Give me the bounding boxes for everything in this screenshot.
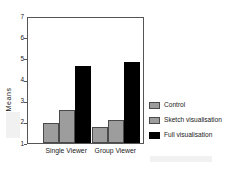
y-axis-tick-label: 5	[10, 56, 24, 63]
y-axis-tick-label: 3	[10, 98, 24, 105]
bar-group-viewer-full-visualisation	[124, 62, 140, 143]
legend-swatch-icon	[149, 102, 160, 109]
y-axis-tick-label: 1	[10, 141, 24, 148]
x-axis-label-2: Group Viewer	[85, 148, 145, 155]
y-axis-tick-label: 4	[10, 77, 24, 84]
scan-artifact	[6, 112, 20, 138]
y-axis-tick-label: 7	[10, 14, 24, 21]
bar-single-viewer-sketch-visualisation	[59, 110, 75, 143]
legend-item-sketch-visualisation[interactable]: Sketch visualisation	[149, 115, 222, 125]
bar-group-viewer-sketch-visualisation	[108, 120, 124, 143]
legend-swatch-icon	[149, 132, 160, 139]
bar-single-viewer-control	[43, 123, 59, 143]
bar-chart-figure: Means 7654321 Single ViewerGroup Viewer …	[0, 0, 232, 169]
plot-area	[27, 17, 144, 144]
bar-group-viewer-control	[92, 127, 108, 144]
legend-label: Sketch visualisation	[164, 117, 222, 124]
y-axis-tick-label: 6	[10, 35, 24, 42]
legend-label: Control	[164, 102, 185, 109]
legend-label: Full visualisation	[164, 132, 212, 139]
legend-swatch-icon	[149, 117, 160, 124]
legend-item-control[interactable]: Control	[149, 100, 185, 110]
legend-item-full-visualisation[interactable]: Full visualisation	[149, 130, 212, 140]
y-axis-tick-mark	[24, 144, 27, 145]
bar-single-viewer-full-visualisation	[75, 66, 91, 143]
scan-artifact	[150, 156, 212, 162]
